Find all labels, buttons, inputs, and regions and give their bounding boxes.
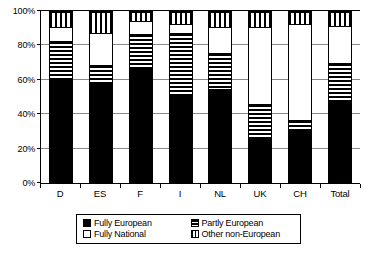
legend-item-label: Fully European — [94, 218, 152, 228]
bar-segment[interactable] — [209, 27, 231, 53]
stacked-bar[interactable] — [248, 11, 272, 183]
bar-segment[interactable] — [249, 139, 271, 183]
plot-area: 0%20%40%60%80%100% — [40, 11, 360, 184]
x-axis-label: NL — [200, 188, 240, 199]
bar-slot — [41, 11, 81, 183]
stacked-bar[interactable] — [328, 11, 352, 183]
legend-item[interactable]: Other non-European — [191, 229, 295, 239]
legend-item-label: Other non-European — [202, 229, 280, 239]
bar-segment[interactable] — [289, 130, 311, 183]
x-axis-label: ES — [80, 188, 120, 199]
y-axis-tick-label: 60% — [18, 75, 35, 85]
white-swatch — [83, 230, 91, 238]
bar-segment[interactable] — [170, 12, 192, 24]
bar-segment[interactable] — [209, 12, 231, 27]
legend-item-label: Fully National — [94, 229, 146, 239]
stacked-bar[interactable] — [89, 11, 113, 183]
x-axis-label: CH — [280, 188, 320, 199]
x-axis-label: UK — [240, 188, 280, 199]
y-axis-tick-label: 80% — [18, 40, 35, 50]
stacked-bar[interactable] — [288, 11, 312, 183]
bar-segment[interactable] — [209, 53, 231, 89]
y-axis-tick-label: 40% — [18, 109, 35, 119]
solid-black-swatch — [83, 219, 91, 227]
bar-segment[interactable] — [329, 26, 351, 64]
y-axis-tick-label: 0% — [22, 178, 35, 188]
bar-segment[interactable] — [90, 65, 112, 84]
bar-segment[interactable] — [130, 68, 152, 183]
bar-segment[interactable] — [50, 41, 72, 80]
bar-segment[interactable] — [289, 12, 311, 24]
bar-segment[interactable] — [170, 33, 192, 96]
legend-item[interactable]: Fully European — [83, 218, 187, 228]
bar-slot — [201, 11, 241, 183]
bar-segment[interactable] — [170, 96, 192, 183]
bar-segment[interactable] — [130, 34, 152, 68]
bar-segment[interactable] — [249, 27, 271, 104]
bar-segment[interactable] — [289, 120, 311, 130]
stacked-bar[interactable] — [129, 11, 153, 183]
x-axis-label: I — [160, 188, 200, 199]
bar-segment[interactable] — [50, 27, 72, 41]
bar-segment[interactable] — [90, 84, 112, 183]
x-axis-label: F — [120, 188, 160, 199]
bar-group — [41, 11, 360, 183]
bar-segment[interactable] — [90, 33, 112, 65]
x-axis-labels: DESFINLUKCHTotal — [40, 188, 360, 199]
bar-segment[interactable] — [329, 101, 351, 183]
x-axis-label: Total — [320, 188, 360, 199]
legend-item[interactable]: Fully National — [83, 229, 187, 239]
bar-segment[interactable] — [50, 80, 72, 183]
bar-segment[interactable] — [130, 12, 152, 21]
vertical-stripe-swatch — [191, 230, 199, 238]
bar-segment[interactable] — [130, 21, 152, 35]
bar-segment[interactable] — [209, 89, 231, 183]
bar-segment[interactable] — [249, 104, 271, 138]
legend-item[interactable]: Partly European — [191, 218, 295, 228]
bar-segment[interactable] — [170, 24, 192, 33]
bar-slot — [161, 11, 201, 183]
bar-slot — [240, 11, 280, 183]
stacked-bar[interactable] — [169, 11, 193, 183]
stacked-bar[interactable] — [208, 11, 232, 183]
bar-segment[interactable] — [249, 12, 271, 27]
x-axis-tick — [360, 184, 361, 188]
bar-segment[interactable] — [329, 12, 351, 26]
chart-legend: Fully EuropeanPartly EuropeanFully Natio… — [76, 214, 301, 244]
horizontal-stripe-swatch — [191, 219, 199, 227]
x-axis-label: D — [40, 188, 80, 199]
bar-slot — [280, 11, 320, 183]
legend-item-label: Partly European — [202, 218, 264, 228]
stacked-bar[interactable] — [49, 11, 73, 183]
stacked-bar-chart: 0%20%40%60%80%100% DESFINLUKCHTotal Full… — [0, 0, 369, 253]
bar-segment[interactable] — [289, 24, 311, 120]
bar-segment[interactable] — [50, 12, 72, 27]
bar-slot — [81, 11, 121, 183]
bar-segment[interactable] — [90, 12, 112, 33]
bar-segment[interactable] — [329, 63, 351, 101]
bar-slot — [121, 11, 161, 183]
y-axis-tick-label: 20% — [18, 144, 35, 154]
bar-slot — [320, 11, 360, 183]
y-axis-tick-label: 100% — [13, 6, 35, 16]
